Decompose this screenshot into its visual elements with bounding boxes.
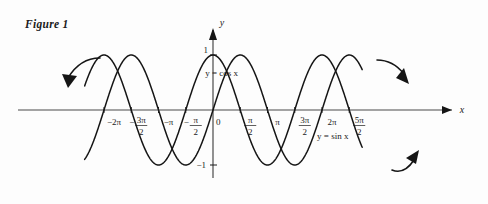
curve-label-sin: y = sin x (317, 131, 349, 141)
x-tick-label: −π (164, 117, 174, 127)
svg-text:2: 2 (303, 127, 308, 137)
curve-label-cos: y = cos x (205, 68, 238, 78)
svg-text:−π: −π (164, 117, 174, 127)
figure-container: Figure 1 −2π−3π2−π−π20π2π3π22π5π2 1−1 y … (0, 0, 488, 204)
y-axis-label: y (219, 17, 225, 28)
svg-text:−: − (184, 117, 189, 127)
x-tick-label: −π2 (184, 115, 202, 137)
svg-text:2: 2 (139, 127, 144, 137)
svg-text:−: − (129, 117, 134, 127)
x-axis-arrowhead (442, 106, 452, 114)
x-tick-label: π (275, 117, 280, 127)
svg-text:π: π (248, 115, 253, 125)
svg-text:5π: 5π (355, 115, 365, 125)
svg-text:2: 2 (248, 127, 253, 137)
axes-group (18, 28, 452, 178)
x-tick-label: −3π2 (129, 115, 147, 137)
x-tick-label: 2π (327, 117, 337, 127)
y-tick-label: −1 (196, 160, 206, 170)
lower-right-arrow (392, 160, 414, 171)
lower-right-arrow-head (406, 150, 419, 164)
y-axis-arrowhead (209, 28, 217, 40)
curve-labels-group: y = cos xy = sin x (205, 68, 349, 141)
x-tick-label: −2π (107, 117, 122, 127)
x-axis-label: x (459, 104, 465, 115)
svg-text:π: π (275, 117, 280, 127)
x-tick-label: 3π2 (299, 115, 311, 137)
svg-text:−2π: −2π (107, 117, 122, 127)
upper-right-arrow (377, 60, 404, 74)
svg-text:2π: 2π (327, 117, 337, 127)
svg-text:3π: 3π (300, 115, 310, 125)
svg-text:2: 2 (194, 127, 199, 137)
svg-text:π: π (193, 115, 198, 125)
left-arrow-head (62, 74, 77, 88)
x-tick-label: 0 (216, 117, 221, 127)
trig-graph-plot: −2π−3π2−π−π20π2π3π22π5π2 1−1 y = cos xy … (0, 0, 488, 204)
upper-right-arrow-head (396, 68, 409, 84)
svg-text:0: 0 (216, 117, 221, 127)
y-tick-label: 1 (204, 45, 209, 55)
svg-text:3π: 3π (137, 115, 147, 125)
svg-text:2: 2 (357, 127, 362, 137)
